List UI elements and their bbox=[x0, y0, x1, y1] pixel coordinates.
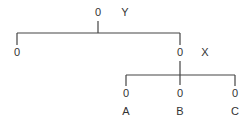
root-label: Y bbox=[121, 6, 129, 18]
left-leaf-value: 0 bbox=[14, 46, 20, 58]
child-c-label: C bbox=[231, 105, 239, 117]
child-c-value: 0 bbox=[232, 87, 238, 99]
child-b-label: B bbox=[176, 105, 183, 117]
root-value: 0 bbox=[95, 6, 101, 18]
child-a-value: 0 bbox=[123, 87, 129, 99]
child-a-label: A bbox=[122, 105, 130, 117]
x-node-label: X bbox=[201, 46, 209, 58]
x-node-value: 0 bbox=[177, 46, 183, 58]
child-b-value: 0 bbox=[177, 87, 183, 99]
tree-diagram: 0 Y 0 0 X 0 A 0 B 0 C bbox=[0, 0, 251, 127]
